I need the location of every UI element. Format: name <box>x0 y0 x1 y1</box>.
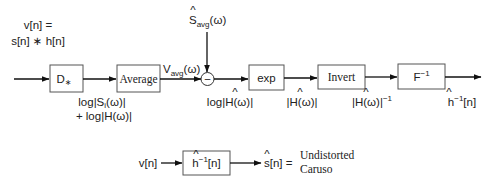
exp-block: exp <box>249 65 284 90</box>
bottom-input-label: v[n] <box>139 157 158 169</box>
minus-symbol: − <box>204 73 211 85</box>
savg-hat: ^ <box>190 4 196 16</box>
abs-hhat-hat: ^ <box>297 86 303 98</box>
invert-block: Invert <box>318 65 365 89</box>
hinv-output-hat: ^ <box>446 86 452 98</box>
inverse-filter-block: h−1[n] ^ <box>183 148 230 175</box>
inverse-filter-hat: ^ <box>193 148 199 160</box>
logsi-label: log|Si(ω)| <box>78 96 125 110</box>
vavg-label: Vavg(ω) <box>163 63 200 78</box>
abs-hhat-inv-hat: ^ <box>363 86 369 98</box>
result-line1: Undistorted <box>300 149 355 161</box>
dstar-sub: ∗ <box>65 78 72 87</box>
blind-deconvolution-diagram: v[n] = s[n] ∗ h[n] D∗ log|Si(ω)| + log|H… <box>0 0 487 187</box>
log-hhat-hat: ^ <box>232 86 238 98</box>
input-label-line1: v[n] = <box>24 19 53 31</box>
result-line2: Caruso <box>300 163 333 175</box>
abs-hhat-inv-label: |H(ω)|−1 <box>352 94 393 108</box>
log-hhat-label: log|H(ω)| <box>207 96 253 108</box>
average-block: Average <box>117 65 160 92</box>
dstar-block: D∗ <box>50 65 83 92</box>
subtract-node: − <box>201 73 214 86</box>
savg-label: Savg(ω) <box>189 14 226 29</box>
dstar-label: D <box>56 73 64 85</box>
bottom-output-hat: ^ <box>264 148 270 160</box>
input-label-line2: s[n] ∗ h[n] <box>11 35 65 47</box>
invert-label: Invert <box>328 71 356 83</box>
logh-label: + log|H(ω)| <box>76 110 132 122</box>
inverse-fourier-block: F−1 <box>398 64 445 89</box>
exp-label: exp <box>257 72 276 84</box>
average-label: Average <box>119 73 157 86</box>
hinv-output-label: h−1[n] <box>448 94 476 108</box>
